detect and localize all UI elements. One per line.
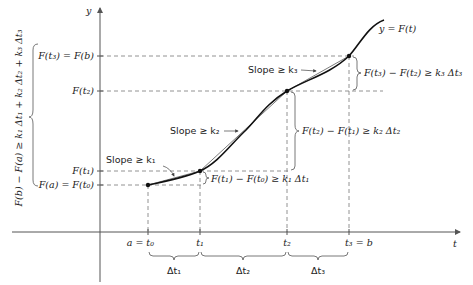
interval-label-2: Δt₂ (236, 265, 250, 276)
point-t0 (146, 183, 150, 187)
brace-diff3 (353, 57, 361, 90)
y-label-t0: F(a) = F(t₀) (38, 179, 95, 190)
y-label-t1: F(t₁) (71, 165, 94, 176)
point-t3 (347, 54, 351, 58)
brace-diff2 (291, 92, 299, 170)
brace-dt1 (149, 252, 199, 260)
brace-dt3 (288, 252, 348, 260)
x-label-t1: t₁ (196, 237, 204, 248)
y-axis-label: y (85, 5, 92, 16)
curve-F (148, 20, 384, 185)
point-t1 (198, 169, 202, 173)
slope-label-3: Slope ≥ k₃ (248, 64, 298, 75)
difference-label-1: F(t₁) − F(t₀) ≥ k₁ Δt₁ (210, 173, 309, 184)
x-label-t3: t₃ = b (345, 237, 373, 248)
slope-label-2: Slope ≥ k₂ (170, 125, 220, 136)
brace-total (29, 44, 38, 186)
difference-label-3: F(t₃) − F(t₂) ≥ k₃ Δt₃ (363, 67, 463, 78)
x-axis-label: t (453, 238, 457, 249)
slope-arrow-3 (301, 70, 316, 71)
interval-label-3: Δt₃ (311, 265, 325, 276)
x-label-t0: a = t₀ (127, 237, 154, 248)
y-label-t3: F(t₃) = F(b) (37, 50, 94, 61)
interval-label-1: Δt₁ (167, 265, 181, 276)
curve-label: y = F(t) (378, 23, 416, 34)
brace-dt2 (201, 252, 286, 260)
diagram-canvas: y t y = F(t) F(a) = F(t₀) F(t₁) F(t₂) F(… (0, 0, 473, 285)
difference-label-2: F(t₂) − F(t₁) ≥ k₂ Δt₂ (301, 125, 401, 136)
x-label-t2: t₂ (283, 237, 291, 248)
y-label-t2: F(t₂) (71, 85, 94, 96)
total-inequality: F(b) − F(a) ≥ k₁ Δt₁ + k₂ Δt₂ + k₃ Δt₃ (13, 29, 24, 207)
point-t2 (285, 89, 289, 93)
slope-label-1: Slope ≥ k₁ (106, 154, 156, 165)
brace-diff1 (203, 172, 209, 184)
